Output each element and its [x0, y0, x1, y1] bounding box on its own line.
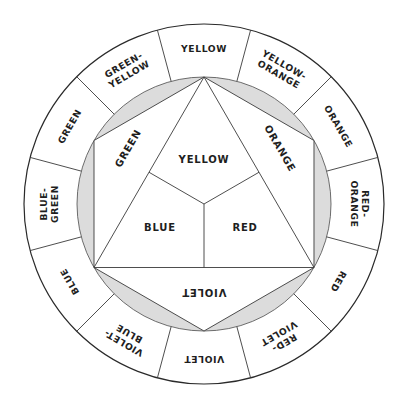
secondary-label-violet: VIOLET — [182, 287, 227, 298]
primary-label-red: RED — [232, 222, 257, 233]
outer-segment-label: VIOLET — [184, 354, 224, 365]
outer-segment-label: BLUE-GREEN — [38, 185, 60, 223]
color-wheel-diagram: YELLOWYELLOW-ORANGEORANGERED-ORANGEREDRE… — [0, 0, 406, 404]
primary-label-blue: BLUE — [144, 222, 176, 233]
primary-label-yellow: YELLOW — [178, 154, 230, 165]
outer-segment-label: YELLOW — [180, 43, 227, 54]
